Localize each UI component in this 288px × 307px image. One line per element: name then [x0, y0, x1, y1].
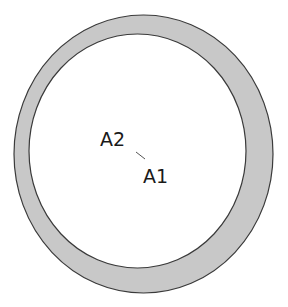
label-a2: A2	[100, 128, 125, 150]
eccentric-circles-diagram: A2 A1	[0, 0, 288, 307]
label-a1: A1	[143, 165, 168, 187]
inner-circle	[29, 34, 246, 268]
